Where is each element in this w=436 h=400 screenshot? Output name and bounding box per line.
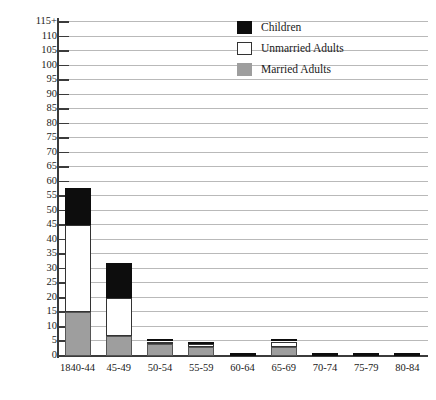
y-axis-tick-label: 5 <box>23 335 57 346</box>
bar-segment-unmarried-adults <box>147 342 173 345</box>
x-axis-tick-label: 70-74 <box>313 362 338 374</box>
y-axis-tick-label: 115+ <box>23 16 57 27</box>
bar-segment-unmarried-adults <box>271 342 297 348</box>
bar-segment-children <box>147 339 173 342</box>
bar-column <box>65 22 91 356</box>
legend: Children Unmarried Adults Married Adults <box>237 18 344 81</box>
legend-swatch-married-adults-icon <box>237 63 252 76</box>
y-axis-tick-label: 60 <box>23 176 57 187</box>
y-axis-tick-label: 55 <box>23 190 57 201</box>
legend-swatch-unmarried-adults-icon <box>237 42 252 55</box>
legend-label-children: Children <box>261 21 301 34</box>
bar-column <box>147 22 173 356</box>
legend-label-married-adults: Married Adults <box>261 63 331 76</box>
bar-column <box>394 22 420 356</box>
y-axis-tick-label: 100 <box>23 60 57 71</box>
y-axis-tick-label: 45 <box>23 219 57 230</box>
x-axis-tick-label: 45-49 <box>107 362 132 374</box>
bar-column <box>106 22 132 356</box>
bar-segment-children <box>312 353 338 356</box>
y-axis-tick-label: 110 <box>23 31 57 42</box>
y-axis-tick-label: 105 <box>23 45 57 56</box>
y-axis-tick-label: 20 <box>23 292 57 303</box>
legend-label-unmarried-adults: Unmarried Adults <box>261 42 344 55</box>
x-axis-tick-label: 1840-44 <box>60 362 95 374</box>
y-axis-tick-label: 40 <box>23 234 57 245</box>
bar-segment-children <box>106 263 132 298</box>
y-axis-tick-label: 80 <box>23 118 57 129</box>
legend-item-children: Children <box>237 18 344 36</box>
bar-segment-married-adults <box>106 336 132 356</box>
y-axis-tick-label: 35 <box>23 248 57 259</box>
bar-column <box>188 22 214 356</box>
bar-segment-children <box>353 353 379 356</box>
y-axis-tick-label: 10 <box>23 321 57 332</box>
x-axis-labels: 1840-4445-4950-5455-5960-6465-6970-7475-… <box>57 362 428 382</box>
x-axis-tick-label: 80-84 <box>395 362 420 374</box>
stacked-bar-chart: 0510152025303540455055606570758085909510… <box>0 0 436 400</box>
x-axis-tick-label: 55-59 <box>189 362 214 374</box>
y-axis-tick-label: 75 <box>23 132 57 143</box>
y-axis-tick-label: 65 <box>23 161 57 172</box>
y-axis-tick-label: 90 <box>23 89 57 100</box>
bar-segment-unmarried-adults <box>65 225 91 312</box>
x-axis-tick-label: 75-79 <box>354 362 379 374</box>
bar-segment-married-adults <box>147 344 173 356</box>
legend-item-unmarried-adults: Unmarried Adults <box>237 39 344 57</box>
y-axis-tick-label: 85 <box>23 103 57 114</box>
y-axis-tick-label: 95 <box>23 74 57 85</box>
bar-segment-unmarried-adults <box>188 344 214 347</box>
bar-segment-married-adults <box>188 347 214 356</box>
y-axis-tick-label: 70 <box>23 147 57 158</box>
y-axis-tick-label: 25 <box>23 277 57 288</box>
bar-segment-married-adults <box>271 347 297 356</box>
bar-segment-children <box>394 353 420 356</box>
bar-segment-children <box>65 188 91 226</box>
bar-segment-unmarried-adults <box>106 298 132 336</box>
y-axis-tick-label: 0 <box>23 350 57 361</box>
y-axis-tick-label: 50 <box>23 205 57 216</box>
bar-column <box>353 22 379 356</box>
legend-swatch-children-icon <box>237 21 252 34</box>
x-axis-tick-label: 50-54 <box>148 362 173 374</box>
bar-segment-children <box>188 342 214 345</box>
x-axis-tick-label: 60-64 <box>230 362 255 374</box>
y-axis-tick-label: 15 <box>23 306 57 317</box>
legend-item-married-adults: Married Adults <box>237 60 344 78</box>
bar-segment-children <box>230 353 256 356</box>
x-axis-tick-label: 65-69 <box>271 362 296 374</box>
bar-segment-children <box>271 339 297 342</box>
y-axis-tick-label: 30 <box>23 263 57 274</box>
bar-segment-married-adults <box>65 312 91 356</box>
